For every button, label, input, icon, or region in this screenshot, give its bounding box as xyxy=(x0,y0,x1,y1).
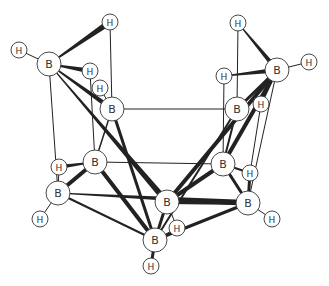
hydrogen-atom-H6: H xyxy=(32,211,48,227)
boron-atom-B9: B xyxy=(211,152,235,176)
boron-atom-B3: B xyxy=(83,150,107,174)
atom-label: H xyxy=(235,19,242,29)
bond-H11-B9 xyxy=(223,76,224,164)
atom-label: H xyxy=(148,262,155,272)
bonds-layer xyxy=(19,20,309,267)
atom-label: H xyxy=(107,18,114,28)
atom-label: B xyxy=(163,196,171,209)
atom-label: H xyxy=(87,67,94,77)
atom-label: H xyxy=(37,215,44,225)
hydrogen-atom-H2: H xyxy=(102,14,118,30)
hydrogen-atom-H5: H xyxy=(51,159,67,175)
atom-label: H xyxy=(56,163,63,173)
atom-label: H xyxy=(221,72,228,82)
hydrogen-atom-H14: H xyxy=(264,211,280,227)
atom-label: B xyxy=(273,64,281,77)
molecule-canvas: BBBBBBBBBBHHHHHHHHHHHHHH xyxy=(0,0,329,286)
atom-label: B xyxy=(219,158,227,171)
bond-H9-B8 xyxy=(237,23,238,109)
atom-label: H xyxy=(97,84,104,94)
hydrogen-atom-H11: H xyxy=(216,68,232,84)
atom-label: H xyxy=(258,100,265,110)
hydrogen-atom-H1: H xyxy=(11,42,27,58)
boron-atom-B10: B xyxy=(236,191,260,215)
bond-B5-B7 xyxy=(167,70,277,202)
hydrogen-atom-H3: H xyxy=(82,63,98,79)
hydrogen-atom-H7: H xyxy=(169,220,185,236)
atom-label: B xyxy=(54,187,62,200)
atom-label: B xyxy=(108,103,116,116)
boron-atom-B8: B xyxy=(225,97,249,121)
boron-atom-B4: B xyxy=(46,181,70,205)
bond-B2-B6 xyxy=(112,109,155,240)
atom-label: B xyxy=(151,234,159,247)
atom-label: H xyxy=(174,224,181,234)
hydrogen-atom-H12: H xyxy=(253,96,269,112)
hydrogen-atom-H10: H xyxy=(301,54,317,70)
hydrogen-atom-H13: H xyxy=(242,165,258,181)
atom-label: H xyxy=(306,58,313,68)
boron-atom-B2: B xyxy=(100,97,124,121)
molecule-diagram: BBBBBBBBBBHHHHHHHHHHHHHH xyxy=(0,0,329,286)
atom-label: H xyxy=(16,46,23,56)
atom-label: H xyxy=(269,215,276,225)
atom-label: B xyxy=(244,197,252,210)
atoms-layer: BBBBBBBBBBHHHHHHHHHHHHHH xyxy=(11,14,317,274)
atom-label: B xyxy=(91,156,99,169)
hydrogen-atom-H4: H xyxy=(92,80,108,96)
hydrogen-atom-H8: H xyxy=(143,258,159,274)
hydrogen-atom-H9: H xyxy=(230,15,246,31)
atom-label: B xyxy=(233,103,241,116)
bond-H2-B2 xyxy=(110,22,112,109)
boron-atom-B7: B xyxy=(265,58,289,82)
boron-atom-B1: B xyxy=(37,52,61,76)
boron-atom-B5: B xyxy=(155,190,179,214)
boron-atom-B6: B xyxy=(143,228,167,252)
atom-label: H xyxy=(247,169,254,179)
atom-label: B xyxy=(45,58,53,71)
